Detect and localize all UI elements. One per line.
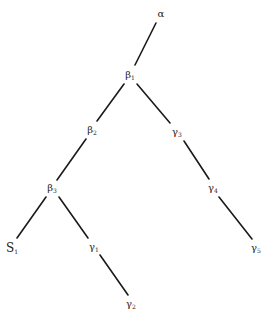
node-gamma3-subscript: 3 — [178, 131, 182, 138]
node-gamma3: γ3 — [172, 127, 182, 138]
edge-beta1-gamma3 — [137, 84, 170, 123]
node-gamma1-subscript: 1 — [95, 246, 99, 253]
edge-beta3-S1 — [17, 197, 46, 238]
node-beta3-subscript: 3 — [53, 187, 57, 194]
edge-beta3-gamma1 — [59, 197, 88, 238]
node-gamma5-subscript: 5 — [257, 247, 261, 254]
node-gamma4: γ4 — [208, 183, 218, 194]
node-alpha: α — [158, 9, 165, 19]
tree-edges — [0, 0, 267, 314]
node-S1-subscript: 1 — [14, 248, 18, 255]
node-gamma1: γ1 — [89, 242, 99, 253]
node-alpha-label: α — [158, 8, 165, 19]
node-beta1-subscript: 1 — [131, 74, 135, 81]
node-beta2: β2 — [87, 125, 97, 136]
edge-beta2-beta3 — [57, 139, 86, 180]
edge-alpha-beta1 — [135, 23, 156, 65]
node-beta3: β3 — [47, 183, 57, 194]
edge-beta1-beta2 — [97, 84, 124, 121]
node-gamma5: γ5 — [251, 243, 261, 254]
edge-gamma1-gamma2 — [100, 255, 128, 295]
node-S1-label: S — [6, 241, 14, 255]
edge-gamma3-gamma4 — [184, 141, 209, 179]
node-S1: S1 — [6, 242, 18, 255]
node-beta2-subscript: 2 — [93, 129, 97, 136]
node-beta1: β1 — [125, 70, 135, 81]
node-gamma2: γ2 — [126, 299, 136, 310]
edge-gamma4-gamma5 — [219, 197, 252, 239]
node-gamma4-subscript: 4 — [214, 187, 218, 194]
node-gamma2-subscript: 2 — [132, 303, 136, 310]
